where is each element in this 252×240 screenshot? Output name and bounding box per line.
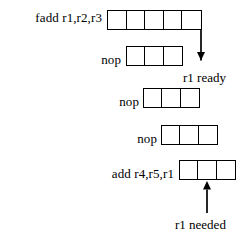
annotation-arrows	[0, 0, 252, 240]
pipeline-stages-row-2	[126, 46, 183, 66]
pipeline-stage-cell	[162, 89, 180, 107]
instruction-label-nop-3: nop	[14, 131, 157, 146]
instruction-label-add: add r4,r5,r1	[14, 166, 174, 181]
pipeline-stages-row-1	[107, 10, 202, 30]
pipeline-stages-row-3	[143, 88, 200, 108]
annotation-r1-ready: r1 ready	[183, 70, 226, 85]
pipeline-stage-cell	[182, 11, 201, 29]
pipeline-stages-row-4	[161, 125, 218, 145]
pipeline-stages-row-5	[179, 160, 236, 180]
annotation-r1-needed: r1 needed	[175, 217, 226, 232]
instruction-label-nop-1: nop	[14, 52, 121, 67]
pipeline-stage-cell	[145, 11, 164, 29]
pipeline-stage-cell	[144, 89, 162, 107]
pipeline-stage-cell	[162, 126, 180, 144]
pipeline-stage-cell	[217, 161, 235, 179]
instruction-label-fadd: fadd r1,r2,r3	[14, 10, 102, 25]
pipeline-stage-cell	[180, 126, 198, 144]
pipeline-stage-cell	[108, 11, 127, 29]
instruction-label-nop-2: nop	[14, 94, 139, 109]
pipeline-stage-cell	[164, 47, 182, 65]
pipeline-stage-cell	[181, 89, 199, 107]
pipeline-stage-cell	[180, 161, 198, 179]
pipeline-stage-cell	[127, 11, 146, 29]
pipeline-stage-cell	[164, 11, 183, 29]
pipeline-stage-cell	[199, 126, 217, 144]
pipeline-stage-cell	[127, 47, 145, 65]
pipeline-stage-cell	[145, 47, 163, 65]
pipeline-timing-diagram: fadd r1,r2,r3 nop nop nop add r4,r5,r1	[0, 0, 252, 240]
pipeline-stage-cell	[198, 161, 216, 179]
